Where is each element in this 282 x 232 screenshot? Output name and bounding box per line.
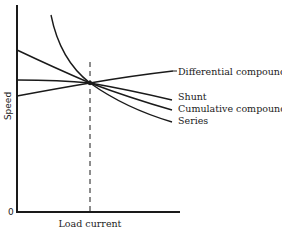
origin-label: 0 <box>8 207 14 217</box>
curve-shunt <box>17 80 172 100</box>
label-differential-compound: Differential compound <box>178 66 282 77</box>
speed-load-chart: Differential compound Shunt Cumulative c… <box>0 0 282 232</box>
label-shunt: Shunt <box>178 91 207 102</box>
curve-series <box>51 15 172 122</box>
intersection-point <box>88 81 92 85</box>
x-axis-label: Load current <box>59 218 122 229</box>
label-series: Series <box>178 115 208 126</box>
y-axis-label: Speed <box>3 92 13 120</box>
label-cumulative-compound: Cumulative compound <box>178 103 282 114</box>
